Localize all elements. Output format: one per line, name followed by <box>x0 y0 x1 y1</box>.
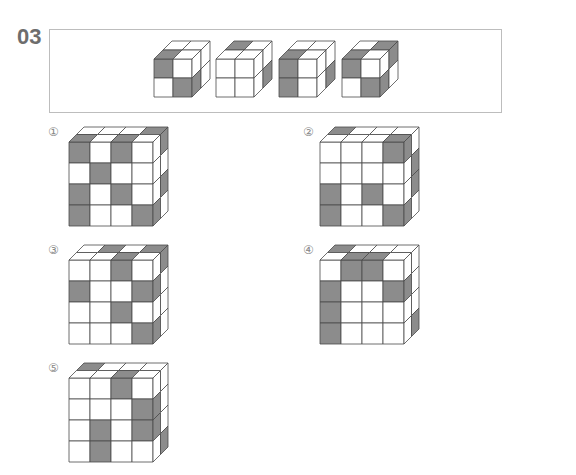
given-cube-3 <box>278 40 348 110</box>
option-1-cube[interactable] <box>68 126 178 236</box>
option-4-label[interactable]: ④ <box>303 243 314 257</box>
given-cube-1 <box>153 40 223 110</box>
given-cube-2 <box>215 40 285 110</box>
option-4-cube[interactable] <box>319 244 429 354</box>
option-3-cube[interactable] <box>68 244 178 354</box>
option-5-cube[interactable] <box>68 362 178 472</box>
question-number: 03 <box>17 24 41 50</box>
option-2-label[interactable]: ② <box>303 125 314 139</box>
option-3-label[interactable]: ③ <box>48 243 59 257</box>
option-5-label[interactable]: ⑤ <box>48 361 59 375</box>
option-2-cube[interactable] <box>319 126 429 236</box>
option-1-label[interactable]: ① <box>48 125 59 139</box>
given-cube-4 <box>341 40 411 110</box>
